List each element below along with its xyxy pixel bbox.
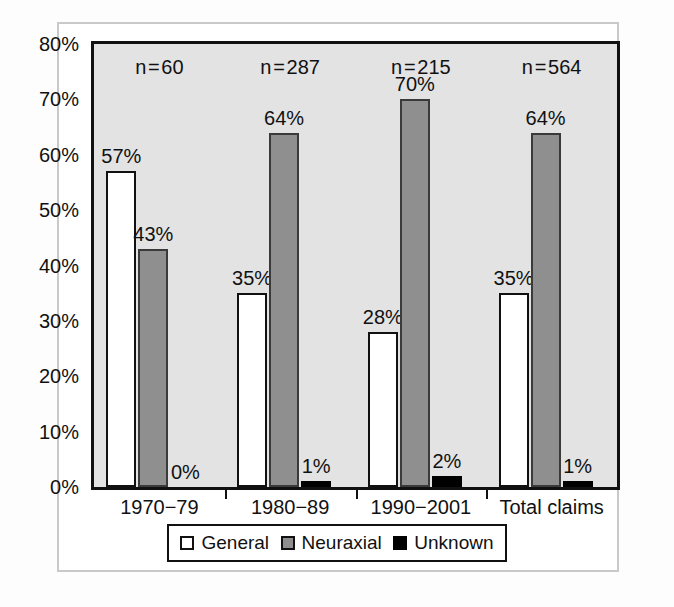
bar-neuraxial xyxy=(400,99,430,487)
chart-legend: General Neuraxial Unknown xyxy=(167,524,507,562)
plot-area: n = 6057%43%0%n = 28735%64%1%n = 21528%7… xyxy=(91,41,620,490)
bar-unknown xyxy=(432,476,462,487)
bar-value-label: 57% xyxy=(76,145,166,168)
legend-label-general: General xyxy=(201,532,269,554)
bar-general xyxy=(106,171,136,487)
legend-item-general: General xyxy=(180,532,269,554)
bar-unknown xyxy=(563,481,593,487)
y-axis-tick-label: 50% xyxy=(19,200,79,220)
y-axis-tick-label: 0% xyxy=(19,477,79,497)
legend-label-unknown: Unknown xyxy=(414,532,493,554)
legend-swatch-neuraxial-icon xyxy=(281,536,295,550)
bar-value-label: 64% xyxy=(239,107,329,130)
group-sample-size-label: n = 60 xyxy=(89,56,229,79)
y-axis-tick-label: 70% xyxy=(19,89,79,109)
x-axis-category-label: Total claims xyxy=(467,496,637,519)
legend-item-neuraxial: Neuraxial xyxy=(281,532,382,554)
bar-general xyxy=(237,293,267,487)
y-axis-tick-label: 40% xyxy=(19,256,79,276)
group-sample-size-label: n = 287 xyxy=(220,56,360,79)
legend-label-neuraxial: Neuraxial xyxy=(302,532,382,554)
figure-container: 0%10%20%30%40%50%60%70%80% n = 6057%43%0… xyxy=(0,0,674,607)
plot-inner: n = 6057%43%0%n = 28735%64%1%n = 21528%7… xyxy=(94,44,617,487)
bar-general xyxy=(368,332,398,487)
bar-neuraxial xyxy=(531,133,561,487)
group-sample-size-label: n = 564 xyxy=(482,56,622,79)
bar-unknown xyxy=(301,481,331,487)
y-axis-tick-label: 30% xyxy=(19,311,79,331)
legend-swatch-general-icon xyxy=(180,536,194,550)
y-axis-tick-label: 80% xyxy=(19,34,79,54)
bar-value-label: 64% xyxy=(501,107,591,130)
y-axis-tick-label: 60% xyxy=(19,145,79,165)
bar-value-label: 1% xyxy=(271,455,361,478)
bar-value-label: 0% xyxy=(140,461,230,484)
bar-value-label: 70% xyxy=(370,73,460,96)
legend-swatch-unknown-icon xyxy=(393,536,407,550)
y-axis-tick-label: 10% xyxy=(19,422,79,442)
bar-value-label: 1% xyxy=(533,455,623,478)
legend-item-unknown: Unknown xyxy=(393,532,493,554)
y-axis-tick-label: 20% xyxy=(19,366,79,386)
bar-general xyxy=(499,293,529,487)
bar-neuraxial xyxy=(138,249,168,487)
bar-value-label: 43% xyxy=(108,223,198,246)
bar-value-label: 2% xyxy=(402,450,492,473)
bar-neuraxial xyxy=(269,133,299,487)
